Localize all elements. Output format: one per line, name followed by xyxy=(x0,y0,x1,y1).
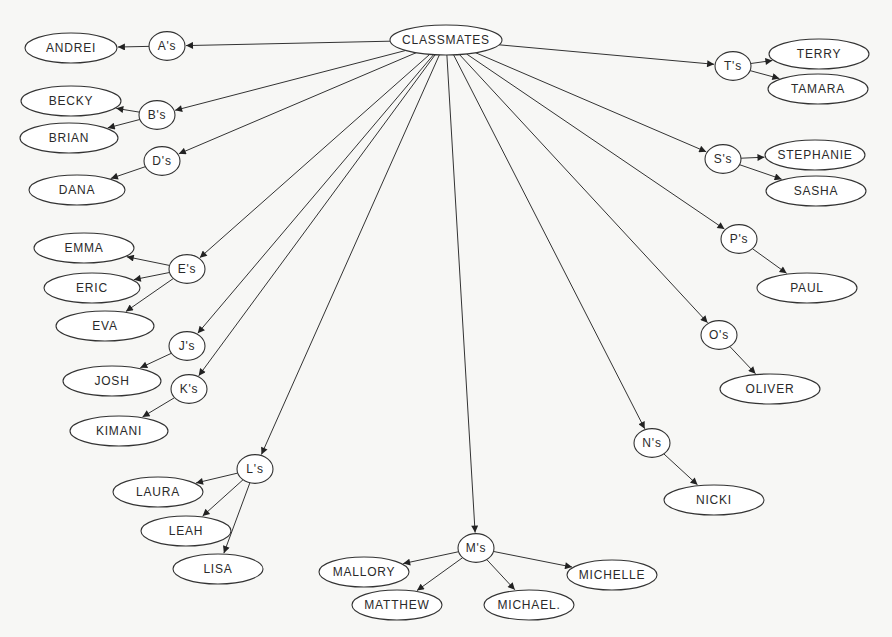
edge-l-to-leah xyxy=(203,480,243,516)
group-node-e xyxy=(169,255,205,284)
name-node-eric xyxy=(44,273,140,303)
group-node-o xyxy=(701,321,737,350)
edge-root-to-t xyxy=(499,45,714,64)
edge-p-to-paul xyxy=(752,249,786,274)
edge-m-to-michael xyxy=(487,560,515,590)
edge-b-to-brian xyxy=(108,119,140,127)
name-node-paul xyxy=(757,273,857,303)
edge-root-to-s xyxy=(476,53,707,152)
edge-k-to-kimani xyxy=(143,398,175,417)
edge-d-to-dana xyxy=(111,167,146,179)
edge-root-to-a xyxy=(186,41,390,45)
name-node-eva xyxy=(56,311,154,341)
group-node-j xyxy=(169,332,205,361)
name-node-becky xyxy=(21,86,121,116)
group-node-t xyxy=(715,52,751,81)
group-node-a xyxy=(149,32,185,61)
name-node-michelle xyxy=(567,560,657,590)
name-node-mallory xyxy=(319,557,409,587)
name-node-stephanie xyxy=(765,140,865,170)
edge-m-to-michelle xyxy=(493,551,572,567)
name-node-michael xyxy=(484,590,574,620)
classmates-tree-diagram xyxy=(0,0,892,637)
name-node-oliver xyxy=(720,374,820,404)
edge-t-to-terry xyxy=(751,61,773,64)
name-node-tamara xyxy=(768,74,868,104)
name-node-andrei xyxy=(25,33,117,63)
name-node-emma xyxy=(34,233,134,263)
edge-e-to-emma xyxy=(127,257,170,266)
edge-o-to-oliver xyxy=(730,346,756,373)
edge-root-to-p xyxy=(467,54,725,229)
root-node-classmates xyxy=(390,25,502,55)
edge-root-to-j xyxy=(198,55,434,334)
group-node-d xyxy=(144,147,180,176)
edge-j-to-josh xyxy=(140,353,171,368)
edge-root-to-o xyxy=(459,55,707,323)
edge-n-to-nicki xyxy=(664,454,698,485)
edge-root-to-e xyxy=(200,54,430,257)
edge-root-to-n xyxy=(454,55,645,429)
name-node-josh xyxy=(63,366,161,396)
group-node-l xyxy=(237,455,273,484)
group-node-n xyxy=(634,429,670,458)
edge-s-to-sasha xyxy=(740,165,782,179)
edge-e-to-eric xyxy=(134,272,170,279)
edge-s-to-stephanie xyxy=(741,157,765,158)
name-node-dana xyxy=(29,175,125,205)
group-node-p xyxy=(721,225,757,254)
name-node-kimani xyxy=(70,416,168,446)
name-node-matthew xyxy=(352,590,442,620)
group-node-k xyxy=(171,375,207,404)
name-node-terry xyxy=(769,39,869,69)
edge-root-to-m xyxy=(447,55,475,533)
name-node-sasha xyxy=(766,176,866,206)
name-node-leah xyxy=(141,516,231,546)
edge-l-to-laura xyxy=(196,473,238,483)
edge-t-to-tamara xyxy=(750,71,779,79)
edge-m-to-mallory xyxy=(403,552,458,564)
name-node-nicki xyxy=(664,485,764,515)
name-node-lisa xyxy=(173,554,263,584)
edge-a-to-andrei xyxy=(118,46,149,47)
name-node-brian xyxy=(20,123,118,153)
edge-b-to-becky xyxy=(116,108,139,112)
edge-root-to-d xyxy=(179,53,416,154)
name-node-laura xyxy=(113,477,203,507)
group-node-s xyxy=(705,145,741,174)
group-node-m xyxy=(458,534,494,563)
edge-root-to-b xyxy=(175,50,406,110)
group-node-b xyxy=(139,101,175,130)
edge-m-to-matthew xyxy=(417,558,463,591)
edge-root-to-k xyxy=(199,55,435,376)
